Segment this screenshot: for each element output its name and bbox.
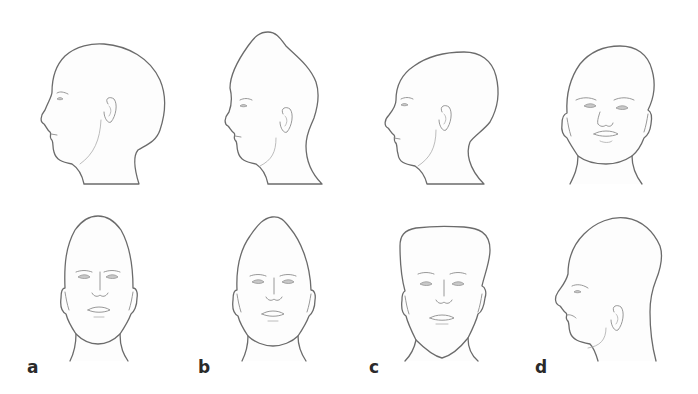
panel-d-frontal-view	[562, 46, 654, 184]
head-a-profile-outline	[41, 44, 164, 184]
panel-d-profile-view	[556, 218, 662, 361]
panel-b-frontal-view	[233, 217, 316, 361]
panel-label-b: b	[198, 359, 210, 376]
head-shape-figure	[0, 0, 698, 394]
panel-label-a: a	[27, 359, 38, 376]
head-c-profile-outline	[385, 52, 498, 184]
panel-a-frontal-view	[61, 216, 138, 361]
panel-b-profile-view	[225, 32, 322, 184]
panel-label-d: d	[535, 359, 547, 376]
panel-c-frontal-view	[400, 226, 490, 361]
panel-a-profile-view	[41, 44, 164, 184]
head-d-eye	[574, 291, 581, 293]
head-d-profile-outline	[556, 218, 662, 361]
panel-c-profile-view	[385, 52, 498, 184]
head-c-eye	[401, 104, 408, 106]
panel-label-c: c	[369, 359, 379, 376]
head-a-frontal-outline	[61, 216, 138, 361]
head-a-eye	[57, 98, 63, 100]
head-b-eye	[240, 105, 247, 107]
head-b-profile-outline	[225, 32, 322, 184]
head-d-frontal-outline	[562, 46, 654, 184]
head-c-frontal-outline	[400, 226, 490, 361]
